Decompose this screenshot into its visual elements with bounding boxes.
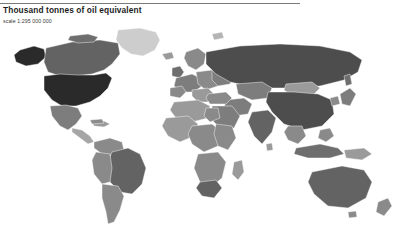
- country-tasmania: [348, 211, 357, 218]
- country-united-kingdom-ireland: [172, 66, 184, 78]
- country-mexico: [50, 105, 82, 130]
- island-svalbard: [212, 32, 224, 40]
- country-canada: [44, 40, 120, 76]
- region-scandinavia: [184, 48, 206, 70]
- country-kazakhstan: [236, 82, 272, 100]
- scale-label: scale 1:295 000 000: [3, 18, 52, 24]
- country-russia: [206, 44, 362, 88]
- page-title: Thousand tonnes of oil equivalent: [3, 5, 142, 15]
- country-china: [266, 92, 334, 130]
- country-greenland: [116, 28, 160, 56]
- island-cuba: [90, 119, 104, 124]
- header-divider: [0, 3, 300, 4]
- country-peru-bolivia: [92, 152, 112, 184]
- country-madagascar: [232, 160, 244, 180]
- country-new-zealand: [376, 198, 392, 216]
- island-sri-lanka: [266, 143, 273, 151]
- country-philippines: [318, 128, 334, 142]
- country-south-africa: [196, 180, 222, 198]
- country-japan: [340, 88, 356, 106]
- country-turkey: [206, 92, 232, 104]
- region-southeast-asia: [284, 126, 306, 144]
- world-map-svg: [0, 26, 395, 229]
- country-india: [248, 110, 276, 144]
- country-united-states: [44, 73, 112, 106]
- country-australia: [308, 166, 372, 208]
- world-choropleth-map: [0, 26, 395, 229]
- country-alaska: [14, 46, 46, 66]
- country-new-guinea: [344, 148, 372, 160]
- country-korea: [330, 96, 340, 106]
- island-iceland: [162, 52, 174, 60]
- region-arctic-islands: [68, 34, 98, 43]
- country-indonesia: [294, 144, 344, 158]
- region-central-america: [72, 128, 94, 144]
- map-figure: Thousand tonnes of oil equivalent scale …: [0, 0, 395, 229]
